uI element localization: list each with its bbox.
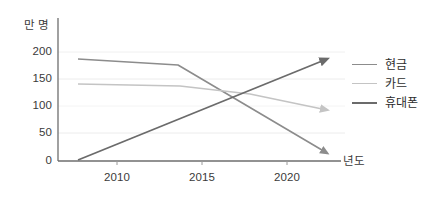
legend-item-cash[interactable]: 현금 xyxy=(352,55,442,74)
y-tick-label-100: 100 xyxy=(18,99,52,111)
y-tick-label-0: 0 xyxy=(18,154,52,166)
x-tick-label-2020: 2020 xyxy=(264,171,310,183)
legend-swatch-cash xyxy=(352,64,377,65)
gridlines xyxy=(58,52,345,133)
chart-legend: 현금 카드 휴대폰 xyxy=(352,55,442,112)
legend-swatch-phone xyxy=(352,102,377,104)
y-tick-label-200: 200 xyxy=(18,45,52,57)
legend-swatch-card xyxy=(352,83,377,84)
legend-label-cash: 현금 xyxy=(385,59,407,71)
legend-label-phone: 휴대폰 xyxy=(385,97,418,109)
series-line-phone xyxy=(78,59,327,160)
y-tick-label-50: 50 xyxy=(18,126,52,138)
x-tick-label-2010: 2010 xyxy=(94,171,140,183)
x-tick-label-2015: 2015 xyxy=(179,171,225,183)
legend-item-card[interactable]: 카드 xyxy=(352,74,442,93)
chart-screenshot: 만 명 200 150 100 50 0 2010 2015 2020 년도 현… xyxy=(0,0,445,202)
x-axis-title: 년도 xyxy=(343,152,365,168)
y-axis-title: 만 명 xyxy=(24,16,49,32)
y-tick-label-150: 150 xyxy=(18,72,52,84)
legend-item-phone[interactable]: 휴대폰 xyxy=(352,93,442,112)
legend-label-card: 카드 xyxy=(385,78,407,90)
